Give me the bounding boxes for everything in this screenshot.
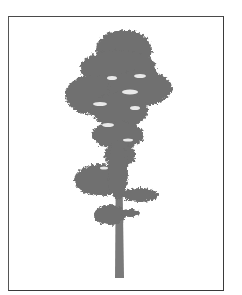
tree-illustration (0, 0, 242, 295)
tree-foliage (65, 30, 172, 225)
